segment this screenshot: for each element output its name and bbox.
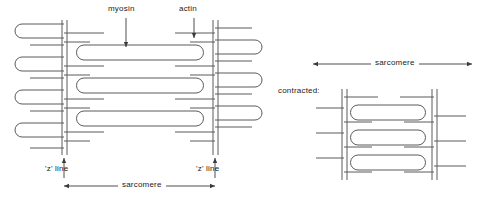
actin-filaments-left-stubs — [30, 45, 64, 148]
actin-label: actin — [179, 4, 197, 14]
diagram-canvas — [0, 0, 479, 198]
contracted-actin-inner-right — [400, 97, 434, 172]
relaxed-sarcomere-group — [15, 20, 262, 155]
contracted-label: contracted: — [278, 86, 320, 96]
actin-filaments-inner-left — [64, 33, 104, 141]
actin-filaments-right-outer — [215, 28, 262, 127]
sarcomere-label-contracted: sarcomere — [371, 58, 419, 68]
contracted-actin-right-stubs — [434, 116, 466, 166]
z-line-right-label: 'z' line — [196, 164, 219, 174]
myosin-filaments-relaxed — [77, 45, 204, 126]
contracted-sarcomere-group — [316, 89, 466, 180]
sarcomere-diagram: myosin actin 'z' line 'z' line sarcomere… — [0, 0, 479, 198]
sarcomere-label-relaxed: sarcomere — [118, 180, 166, 190]
z-line-left-contracted — [342, 89, 347, 180]
contracted-actin-inner-left — [344, 97, 378, 172]
actin-filaments-left-outer — [15, 24, 64, 137]
contracted-actin-left-stubs — [316, 108, 344, 158]
z-line-left-relaxed — [62, 20, 67, 155]
myosin-filaments-contracted — [351, 105, 426, 170]
z-line-left-label: 'z' line — [45, 164, 68, 174]
actin-filaments-inner-right — [175, 33, 215, 141]
myosin-label: myosin — [108, 4, 135, 14]
